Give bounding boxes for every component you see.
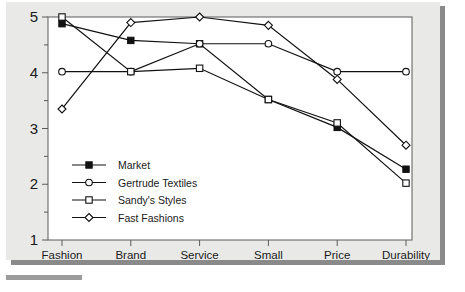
y-axis-ticks: [42, 17, 48, 240]
data-point-marker: [265, 96, 271, 102]
data-point-marker: [128, 37, 134, 43]
legend-label-market: Market: [118, 159, 150, 171]
y-tick-label: 1: [30, 231, 38, 248]
data-point-marker: [403, 180, 409, 186]
data-point-marker: [59, 68, 66, 75]
data-point-marker: [334, 68, 341, 75]
legend-label-fast-fashions: Fast Fashions: [118, 212, 184, 224]
data-point-marker: [59, 20, 65, 26]
y-tick-label: 2: [30, 175, 38, 192]
x-axis-ticks: [62, 240, 406, 246]
panel-drop-shadow-right: [440, 6, 445, 264]
x-category-label: Small: [254, 249, 283, 260]
panel-drop-shadow-bottom: [11, 260, 445, 265]
legend-label-sandy-s-styles: Sandy's Styles: [118, 194, 187, 206]
footer-rule: [6, 275, 82, 280]
line-chart: 12345 FashionBrandServiceSmalldeliveries…: [6, 2, 440, 260]
x-category-label: Service: [180, 249, 218, 260]
data-point-marker: [59, 14, 65, 20]
y-axis-tick-labels: 12345: [30, 8, 38, 248]
y-tick-label: 3: [30, 120, 38, 137]
x-category-label: Price: [324, 249, 350, 260]
legend-marker-sandy-s-styles: [86, 197, 92, 203]
data-point-marker: [403, 68, 410, 75]
x-category-label: Brand: [115, 249, 146, 260]
legend-marker-market: [86, 162, 92, 168]
x-category-label: Fashion: [42, 249, 83, 260]
x-category-label: Durability: [382, 249, 430, 260]
data-point-marker: [334, 120, 340, 126]
legend-label-gertrude-textiles: Gertrude Textiles: [118, 177, 197, 189]
chart-svg: 12345 FashionBrandServiceSmalldeliveries…: [6, 2, 440, 260]
y-tick-label: 4: [30, 64, 38, 81]
data-point-marker: [196, 65, 202, 71]
data-point-marker: [265, 40, 272, 47]
y-tick-label: 5: [30, 8, 38, 25]
data-point-marker: [196, 40, 203, 47]
legend-marker-gertrude-textiles: [86, 179, 93, 186]
data-point-marker: [128, 68, 134, 74]
plot-frame: [48, 17, 412, 240]
x-axis-category-labels: FashionBrandServiceSmalldeliveriesPriceD…: [42, 249, 431, 260]
data-point-marker: [403, 166, 409, 172]
chart-page: 12345 FashionBrandServiceSmalldeliveries…: [0, 0, 465, 292]
